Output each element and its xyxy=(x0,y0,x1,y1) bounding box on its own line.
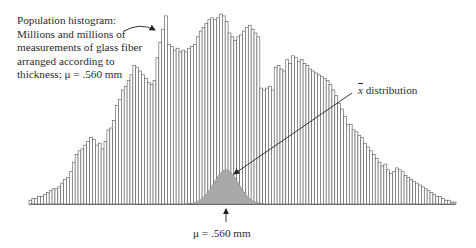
histogram-bar xyxy=(268,86,271,204)
histogram-bar xyxy=(188,48,191,204)
histogram-bar xyxy=(144,79,147,204)
xbar-label-text: distribution xyxy=(363,84,417,96)
histogram-bar xyxy=(341,109,344,204)
histogram-bar xyxy=(410,179,413,204)
histogram-bar xyxy=(277,65,280,204)
histogram-bar xyxy=(167,44,170,204)
histogram-bar xyxy=(260,88,263,204)
histogram-bar xyxy=(153,81,156,205)
histogram-bar xyxy=(43,195,46,205)
histogram-bar xyxy=(133,65,136,204)
histogram-bar xyxy=(84,145,87,204)
histogram-bar xyxy=(309,69,312,204)
histogram-bar xyxy=(364,143,367,204)
histogram-bar xyxy=(320,77,323,204)
histogram-bar xyxy=(369,151,372,204)
histogram-bar xyxy=(292,56,295,204)
histogram-bar xyxy=(55,189,58,204)
population-label-line: Population histogram: xyxy=(17,14,142,28)
histogram-bar xyxy=(121,90,124,204)
histogram-bar xyxy=(237,37,240,204)
histogram-bar xyxy=(384,164,387,204)
histogram-bar xyxy=(176,48,179,204)
histogram-bar xyxy=(343,117,346,204)
histogram-bar xyxy=(104,141,107,204)
histogram-bar xyxy=(173,50,176,204)
histogram-bar xyxy=(283,71,286,204)
histogram-bar xyxy=(185,52,188,204)
histogram-bar xyxy=(439,196,442,204)
histogram-bar xyxy=(116,105,119,204)
population-label-line: arranged according to xyxy=(17,55,142,69)
histogram-bar xyxy=(424,189,427,204)
histogram-bar xyxy=(208,20,211,204)
histogram-bar xyxy=(335,96,338,204)
histogram-bar xyxy=(407,177,410,204)
histogram-bar xyxy=(421,187,424,204)
histogram-bar xyxy=(214,20,217,204)
mean-label: μ = .560 mm xyxy=(193,227,251,241)
histogram-bar xyxy=(193,44,196,204)
histogram-bar xyxy=(46,193,49,204)
histogram-bar xyxy=(199,31,202,204)
histogram-bar xyxy=(32,198,35,204)
histogram-bar xyxy=(107,130,110,204)
histogram-bar xyxy=(159,43,162,205)
histogram-bar xyxy=(61,183,64,204)
histogram-bar xyxy=(289,63,292,204)
histogram-bar xyxy=(326,81,329,205)
histogram-bar xyxy=(303,63,306,204)
histogram-bar xyxy=(211,18,214,204)
xbar-distribution-label: x distribution xyxy=(358,84,417,98)
histogram-bar xyxy=(286,60,289,204)
histogram-bar xyxy=(378,162,381,204)
histogram-bar xyxy=(182,50,185,204)
histogram-bar xyxy=(318,75,321,204)
histogram-bar xyxy=(274,67,277,204)
histogram-bar xyxy=(413,181,416,204)
histogram-bar xyxy=(352,130,355,204)
histogram-bar xyxy=(170,46,173,204)
histogram-bar xyxy=(323,79,326,204)
population-label-line: Millions and millions of xyxy=(17,28,142,42)
histogram-bar xyxy=(69,172,72,204)
histogram-bar xyxy=(332,90,335,204)
histogram-bar xyxy=(450,202,453,204)
histogram-bar xyxy=(98,143,101,204)
histogram-bar xyxy=(52,189,55,204)
histogram-bar xyxy=(393,172,396,204)
histogram-bar xyxy=(315,73,318,204)
histogram-bar xyxy=(118,100,121,205)
histogram-bar xyxy=(75,155,78,204)
histogram-bar xyxy=(95,145,98,204)
histogram-bar xyxy=(375,158,378,204)
histogram-bar xyxy=(372,155,375,204)
histogram-bar xyxy=(101,149,104,204)
histogram-bar xyxy=(124,86,127,204)
histogram-bar xyxy=(401,172,404,204)
histogram-bar xyxy=(139,71,142,204)
histogram-bar xyxy=(248,25,251,204)
histogram-bar xyxy=(81,149,84,204)
histogram-bar xyxy=(150,84,153,204)
histogram-bar xyxy=(92,139,95,204)
histogram-bar xyxy=(453,202,456,204)
histogram-bar xyxy=(398,170,401,204)
histogram-bar xyxy=(395,168,398,204)
histogram-bar xyxy=(254,33,257,204)
histogram-bar xyxy=(442,198,445,204)
population-label-line: measurements of glass fiber xyxy=(17,41,142,55)
histogram-bar xyxy=(72,162,75,204)
histogram-bar xyxy=(433,195,436,205)
histogram-bar xyxy=(306,65,309,204)
histogram-bar xyxy=(430,193,433,204)
histogram-bar xyxy=(191,46,194,204)
population-label-line: thickness; μ = .560 mm xyxy=(17,68,142,82)
histogram-bar xyxy=(196,37,199,204)
histogram-bar xyxy=(338,103,341,204)
histogram-bar xyxy=(387,170,390,204)
histogram-bar xyxy=(312,71,315,204)
histogram-bar xyxy=(64,179,67,204)
histogram-bar xyxy=(202,27,205,204)
histogram-bar xyxy=(113,120,116,204)
